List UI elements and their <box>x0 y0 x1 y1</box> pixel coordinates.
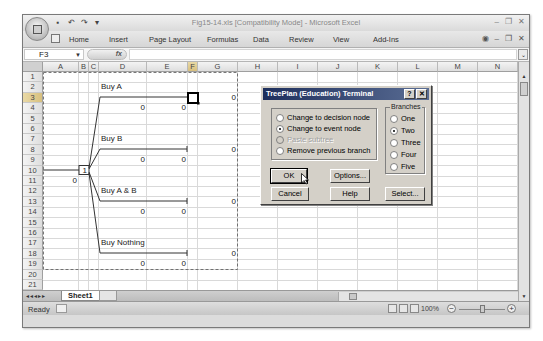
radio-change-to-decision-node[interactable]: Change to decision node <box>276 113 370 123</box>
action-group: Change to decision node Change to event … <box>271 108 377 160</box>
zoom-out-icon[interactable]: − <box>447 304 456 313</box>
workbook-restore-button[interactable]: ❐ <box>505 34 512 43</box>
office-button[interactable] <box>25 17 49 41</box>
tab-review[interactable]: Review <box>289 35 314 44</box>
select-button[interactable]: Select... <box>385 187 425 201</box>
radio-branches-three[interactable]: Three <box>390 138 421 148</box>
office-logo-icon <box>33 25 42 34</box>
tab-insert[interactable]: Insert <box>109 35 128 44</box>
terminal-value-g[interactable]: 0 <box>198 249 236 259</box>
name-box[interactable]: F3 ▼ <box>24 49 84 60</box>
help-button[interactable]: Help <box>330 187 370 201</box>
tab-page-layout[interactable]: Page Layout <box>149 35 191 44</box>
undo-icon[interactable]: ↶ <box>66 18 76 28</box>
radio-icon <box>390 115 398 123</box>
zoom-level[interactable]: 100% <box>421 305 439 312</box>
help-icon[interactable]: ◉ <box>482 34 489 43</box>
radio-branches-two[interactable]: Two <box>390 126 415 136</box>
sheet-tab-sheet1[interactable]: Sheet1 <box>61 291 100 301</box>
insert-function-button[interactable]: fx <box>87 49 127 60</box>
insert-sheet-icon[interactable] <box>99 291 117 301</box>
customize-icon[interactable]: ▾ <box>92 18 102 28</box>
options-button[interactable]: Options... <box>330 169 370 183</box>
page-break-view-icon[interactable] <box>410 304 419 313</box>
zoom-slider-thumb[interactable] <box>480 305 485 313</box>
expand-formula-bar-button[interactable]: ⌄ <box>518 49 528 60</box>
radio-branches-five[interactable]: Five <box>390 162 415 172</box>
radio-branches-one[interactable]: One <box>390 114 415 124</box>
status-bar: Ready 100% − + <box>23 301 529 315</box>
radio-remove-previous-branch[interactable]: Remove previous branch <box>276 146 370 156</box>
radio-icon <box>390 163 398 171</box>
branch-label[interactable]: Buy Nothing <box>101 238 145 248</box>
tab-data[interactable]: Data <box>253 35 269 44</box>
branches-group: Branches One Two Three Four Five <box>385 107 425 174</box>
formula-bar: F3 ▼ fx ⌄ <box>23 48 529 62</box>
zoom-in-icon[interactable]: + <box>507 304 516 313</box>
cancel-button[interactable]: Cancel <box>271 187 309 201</box>
ribbon-mini-icon[interactable] <box>51 34 60 43</box>
terminal-value-g[interactable]: 0 <box>198 93 236 103</box>
branch-label[interactable]: Buy A <box>101 82 122 92</box>
quick-access-toolbar: ▪ ↶ ↷ ▾ <box>53 17 102 29</box>
window-controls: – ❐ ✕ <box>495 17 525 26</box>
terminal-value-g[interactable]: 0 <box>198 197 236 207</box>
dialog-close-button[interactable]: ✕ <box>416 89 427 99</box>
radio-branches-four[interactable]: Four <box>390 150 416 160</box>
branch-value-e[interactable]: 0 <box>147 259 186 269</box>
branch-value-d[interactable]: 0 <box>99 103 145 113</box>
dialog-title: TreePlan (Education) Terminal <box>266 89 373 98</box>
ribbon-right-controls: ◉ – ❐ ✕ <box>482 34 525 43</box>
status-text: Ready <box>28 305 50 314</box>
treeplan-dialog: TreePlan (Education) Terminal ? ✕ Change… <box>260 85 432 205</box>
branch-label[interactable]: Buy B <box>101 134 122 144</box>
macro-record-icon[interactable] <box>56 304 67 313</box>
branch-value-d[interactable]: 0 <box>99 155 145 165</box>
radio-selected-icon <box>276 125 284 133</box>
tab-add-ins[interactable]: Add-Ins <box>373 35 399 44</box>
branch-value-d[interactable]: 0 <box>99 259 145 269</box>
tab-view[interactable]: View <box>333 35 349 44</box>
radio-paste-subtree: Paste subtree <box>276 135 333 145</box>
radio-change-to-event-node[interactable]: Change to event node <box>276 124 361 134</box>
radio-selected-icon <box>390 127 398 135</box>
radio-icon <box>390 139 398 147</box>
radio-icon <box>390 151 398 159</box>
branch-value-e[interactable]: 0 <box>147 155 186 165</box>
horizontal-scrollbar[interactable] <box>338 292 518 301</box>
dialog-help-button[interactable]: ? <box>404 89 415 99</box>
branch-value-e[interactable]: 0 <box>147 103 186 113</box>
tab-formulas[interactable]: Formulas <box>207 35 238 44</box>
chevron-down-icon[interactable]: ▼ <box>75 50 81 60</box>
dialog-title-bar: TreePlan (Education) Terminal ? ✕ <box>263 88 429 100</box>
minimize-button[interactable]: – <box>495 17 499 26</box>
sheet-nav-arrows-icon[interactable]: ◂◂◂▸▸ <box>26 292 46 299</box>
sheet-tab-bar: ◂◂◂▸▸ Sheet1 <box>23 290 518 301</box>
radio-icon <box>276 114 284 122</box>
redo-icon[interactable]: ↷ <box>79 18 89 28</box>
vertical-scrollbar[interactable]: ▲ ▼ <box>518 62 529 301</box>
title-bar: Fig15-14.xls [Compatibility Mode] - Micr… <box>23 15 529 31</box>
page-layout-view-icon[interactable] <box>399 304 408 313</box>
normal-view-icon[interactable] <box>388 304 397 313</box>
maximize-button[interactable]: ❐ <box>505 17 512 26</box>
hscroll-thumb[interactable] <box>349 293 357 300</box>
branch-value-d[interactable]: 0 <box>99 207 145 217</box>
terminal-value-g[interactable]: 0 <box>198 145 236 155</box>
scroll-down-icon[interactable]: ▼ <box>519 292 529 301</box>
save-icon[interactable]: ▪ <box>53 18 63 28</box>
decision-node-label[interactable]: 1 <box>79 166 87 176</box>
mouse-cursor-icon <box>301 173 309 185</box>
close-button[interactable]: ✕ <box>518 17 525 26</box>
scroll-thumb[interactable] <box>520 82 528 96</box>
workbook-minimize-button[interactable]: – <box>495 34 499 43</box>
branch-value-e[interactable]: 0 <box>147 207 186 217</box>
scroll-up-icon[interactable]: ▲ <box>519 72 529 81</box>
root-value[interactable]: 0 <box>43 176 77 186</box>
branches-group-label: Branches <box>390 103 422 110</box>
formula-input[interactable] <box>129 49 517 60</box>
workbook-close-button[interactable]: ✕ <box>518 34 525 43</box>
tab-home[interactable]: Home <box>69 35 89 44</box>
branch-label[interactable]: Buy A & B <box>101 186 137 196</box>
fx-icon: fx <box>116 50 122 57</box>
